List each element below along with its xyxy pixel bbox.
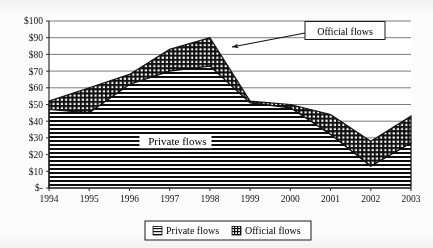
x-tick-label: 1997: [160, 194, 179, 204]
private-flows-inline-label: Private flows: [139, 134, 211, 148]
x-tick-label: 1998: [200, 194, 219, 204]
x-tick-label: 1995: [80, 194, 99, 204]
cross-hatch-swatch-icon: [232, 227, 241, 236]
x-axis-ticks: 1994199519961997199819992000200120022003: [40, 188, 421, 204]
y-tick-label: $50: [29, 100, 44, 110]
private-flows-inline-label-text: Private flows: [148, 135, 206, 147]
y-tick-label: $30: [29, 133, 44, 143]
y-tick-label: $40: [29, 117, 44, 127]
y-tick-label: $100: [24, 16, 43, 26]
y-tick-label: $10: [29, 167, 44, 177]
x-tick-label: 1999: [241, 194, 260, 204]
y-tick-label: $20: [29, 150, 44, 160]
y-tick-label: $80: [29, 50, 44, 60]
x-tick-label: 2000: [281, 194, 300, 204]
x-tick-label: 2002: [361, 194, 380, 204]
y-tick-label: $-: [35, 183, 43, 193]
callout-label: Official flows: [317, 26, 373, 37]
x-tick-label: 1994: [40, 194, 59, 204]
stacked-area-chart: $-$10$20$30$40$50$60$70$80$90$100 199419…: [0, 0, 433, 248]
y-tick-label: $70: [29, 67, 44, 77]
chart-container: $-$10$20$30$40$50$60$70$80$90$100 199419…: [0, 0, 433, 248]
legend-label-private-flows: Private flows: [166, 225, 219, 236]
legend-label-official-flows: Official flows: [245, 225, 301, 236]
y-tick-label: $90: [29, 33, 44, 43]
y-axis-ticks: $-$10$20$30$40$50$60$70$80$90$100: [24, 16, 49, 193]
x-tick-label: 2003: [402, 194, 421, 204]
x-tick-label: 1996: [120, 194, 139, 204]
horizontal-lines-swatch-icon: [153, 227, 162, 236]
x-tick-label: 2001: [321, 194, 340, 204]
y-tick-label: $60: [29, 83, 44, 93]
chart-legend: Private flows Official flows: [145, 221, 311, 240]
